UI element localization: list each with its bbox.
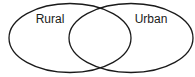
venn-diagram: Rural Urban [0,0,195,77]
rural-label: Rural [36,12,65,26]
urban-label: Urban [135,12,168,26]
rural-set-ellipse [9,4,131,73]
